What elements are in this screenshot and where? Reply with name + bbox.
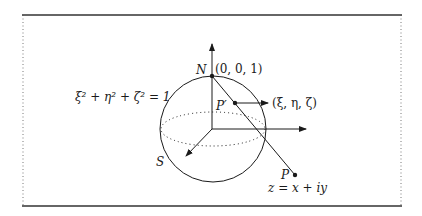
p-prime-point: [233, 101, 237, 105]
label-p-prime: P′: [215, 99, 227, 113]
projection-line: [212, 76, 295, 175]
y-axis: [186, 129, 212, 156]
label-z-eq: z = x + iy: [267, 181, 327, 195]
label-p: P: [280, 168, 290, 182]
north-point: [210, 74, 214, 78]
label-south: S: [156, 155, 164, 169]
label-p-prime-coords: (ξ, η, ζ): [272, 96, 317, 110]
stereographic-projection-diagram: N (0, 0, 1) ξ² + η² + ζ² = 1 P′ (ξ, η, ζ…: [0, 0, 422, 216]
label-north-coords: (0, 0, 1): [215, 62, 263, 76]
label-sphere-eq: ξ² + η² + ζ² = 1: [75, 90, 170, 104]
label-north: N: [195, 63, 207, 77]
p-point: [293, 173, 297, 177]
